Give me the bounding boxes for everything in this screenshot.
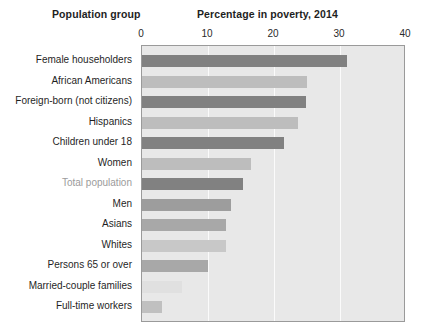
x-axis: 010203040 xyxy=(141,28,405,44)
category-label: Children under 18 xyxy=(0,132,136,152)
category-label: Full-time workers xyxy=(0,296,136,316)
bar-row xyxy=(142,277,404,297)
category-labels: Female householdersAfrican AmericansFore… xyxy=(0,45,136,322)
x-axis-tick-label: 20 xyxy=(267,28,278,39)
bar xyxy=(142,281,182,293)
category-label: African Americans xyxy=(0,71,136,91)
category-label: Asians xyxy=(0,214,136,234)
bar-row xyxy=(142,297,404,317)
population-group-header: Population group xyxy=(52,8,141,20)
x-axis-tick-label: 10 xyxy=(201,28,212,39)
x-axis-tick-label: 0 xyxy=(138,28,144,39)
bar-row xyxy=(142,215,404,235)
bar-row xyxy=(142,174,404,194)
category-label: Women xyxy=(0,153,136,173)
bar xyxy=(142,260,208,272)
x-axis-tick-label: 40 xyxy=(399,28,410,39)
category-label: Persons 65 or over xyxy=(0,255,136,275)
category-label: Female householders xyxy=(0,50,136,70)
bar-row xyxy=(142,256,404,276)
bar xyxy=(142,301,162,313)
category-label: Married-couple families xyxy=(0,276,136,296)
bar-row xyxy=(142,154,404,174)
bar-row xyxy=(142,133,404,153)
x-axis-tick-label: 30 xyxy=(333,28,344,39)
bar xyxy=(142,96,306,108)
bar xyxy=(142,55,347,67)
bar-row xyxy=(142,51,404,71)
plot-area xyxy=(141,45,405,322)
bar xyxy=(142,158,251,170)
category-label: Men xyxy=(0,194,136,214)
chart-title: Percentage in poverty, 2014 xyxy=(197,8,338,20)
bar xyxy=(142,199,231,211)
bar-row xyxy=(142,92,404,112)
category-label: Total population xyxy=(0,173,136,193)
bar xyxy=(142,178,243,190)
bar-row xyxy=(142,195,404,215)
bar xyxy=(142,137,284,149)
bar xyxy=(142,219,226,231)
bar-row xyxy=(142,236,404,256)
bar-row xyxy=(142,72,404,92)
category-label: Hispanics xyxy=(0,112,136,132)
bars-container xyxy=(142,46,404,321)
bar xyxy=(142,240,226,252)
category-label: Foreign-born (not citizens) xyxy=(0,91,136,111)
poverty-bar-chart-figure: Population group Percentage in poverty, … xyxy=(0,0,422,334)
category-label: Whites xyxy=(0,235,136,255)
bar xyxy=(142,117,298,129)
bar-row xyxy=(142,113,404,133)
bar xyxy=(142,76,307,88)
